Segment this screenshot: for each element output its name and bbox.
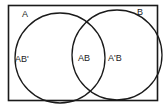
region-intersection-label: AB [78,53,90,63]
region-b-only-label: A'B [108,53,122,63]
venn-diagram: A B AB' AB A'B [0,0,165,106]
set-b-label: B [137,7,143,17]
region-a-only-label: AB' [15,54,29,64]
set-a-label: A [22,9,28,19]
